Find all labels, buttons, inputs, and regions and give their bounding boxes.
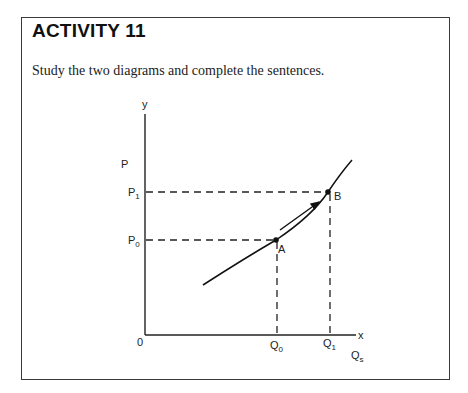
point-b [325, 189, 331, 195]
quantity-level-q1: Q1 [323, 337, 337, 352]
x-axis-label: x [358, 329, 364, 341]
price-level-p1: P1 [128, 186, 140, 201]
point-b-label: B [334, 190, 341, 202]
quantity-axis-label: Qs [351, 349, 364, 364]
price-axis-label: P [121, 158, 128, 170]
y-axis-label: y [142, 98, 148, 110]
price-level-p0: P0 [128, 234, 140, 249]
quantity-level-q0: Q0 [270, 339, 284, 354]
movement-arrow [280, 202, 319, 230]
point-a [273, 237, 279, 243]
point-a-label: A [278, 243, 286, 255]
origin-label: 0 [137, 336, 143, 348]
supply-diagram: y x 0 P Qs P1 P0 Q0 Q1 A B [0, 0, 468, 393]
